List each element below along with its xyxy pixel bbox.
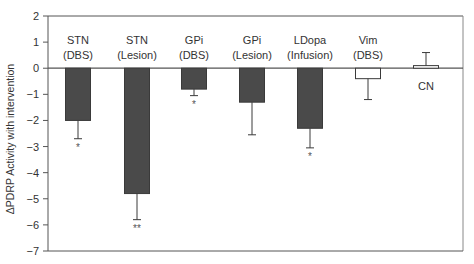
category-label-line1: GPi bbox=[243, 34, 261, 46]
category-label-line1: Vim bbox=[359, 34, 378, 46]
bar bbox=[356, 68, 381, 78]
y-tick-label: −5 bbox=[26, 193, 39, 205]
category-label-line1: LDopa bbox=[294, 34, 327, 46]
category-label-line1: STN bbox=[67, 34, 89, 46]
bar bbox=[240, 68, 265, 102]
category-label-line2: (DBS) bbox=[63, 49, 93, 61]
y-axis-ticks: 210−1−2−3−4−5−6−7 bbox=[26, 10, 48, 257]
bar bbox=[66, 68, 91, 120]
y-tick-label: 0 bbox=[33, 62, 39, 74]
category-label: CN bbox=[418, 80, 434, 92]
y-tick-label: 1 bbox=[33, 36, 39, 48]
category-label-line1: GPi bbox=[185, 34, 203, 46]
significance-marker: * bbox=[192, 99, 196, 110]
significance-markers-group: ***** bbox=[76, 99, 312, 234]
bar bbox=[414, 66, 439, 69]
bar bbox=[182, 68, 207, 89]
category-label-line2: (Infusion) bbox=[287, 49, 333, 61]
y-axis-label: ΔPDRP Activity with intervention bbox=[4, 64, 16, 215]
y-tick-label: −7 bbox=[26, 245, 39, 257]
category-label-line2: (DBS) bbox=[179, 49, 209, 61]
category-label-line1: STN bbox=[126, 34, 148, 46]
y-tick-label: −3 bbox=[26, 141, 39, 153]
significance-marker: * bbox=[308, 151, 312, 162]
y-tick-label: −2 bbox=[26, 114, 39, 126]
bar bbox=[125, 68, 150, 193]
y-tick-label: −6 bbox=[26, 219, 39, 231]
category-label-line2: (DBS) bbox=[353, 49, 383, 61]
significance-marker: * bbox=[76, 142, 80, 153]
y-tick-label: −4 bbox=[26, 167, 39, 179]
category-label-line2: (Lesion) bbox=[232, 49, 272, 61]
category-label-line2: (Lesion) bbox=[117, 49, 157, 61]
y-tick-label: 2 bbox=[33, 10, 39, 22]
bar-chart: 210−1−2−3−4−5−6−7 STN(DBS)STN(Lesion)GPi… bbox=[0, 0, 474, 264]
y-tick-label: −1 bbox=[26, 88, 39, 100]
significance-marker: ** bbox=[133, 223, 141, 234]
bar bbox=[298, 68, 323, 128]
